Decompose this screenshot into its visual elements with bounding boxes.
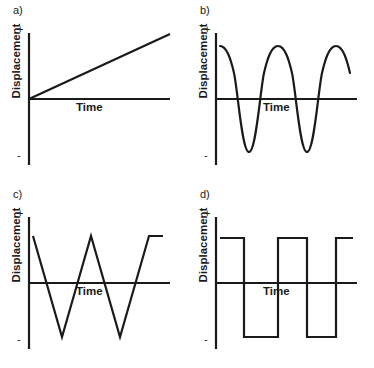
panel-a: a) + - Displacement Time (0, 0, 187, 184)
waveform-figure: a) + - Displacement Time b) + - Displace… (0, 0, 374, 368)
panel-d-y-axis-label: Displacement (197, 197, 209, 293)
panel-c-negative-sign: - (17, 334, 21, 344)
panel-c-y-axis-label: Displacement (10, 197, 22, 293)
panel-b-plot (187, 0, 374, 184)
panel-d-negative-sign: - (204, 334, 208, 344)
panel-b-x-axis-label: Time (263, 101, 290, 113)
panel-b: b) + - Displacement Time (187, 0, 374, 184)
panel-c-x-axis-label: Time (76, 285, 103, 297)
panel-d-x-axis-label: Time (263, 285, 290, 297)
panel-a-plot (0, 0, 187, 184)
panel-a-y-axis-label: Displacement (10, 13, 22, 109)
panel-a-negative-sign: - (17, 150, 21, 160)
ramp-waveform-path (29, 34, 170, 99)
panel-b-negative-sign: - (204, 150, 208, 160)
panel-d-plot (187, 184, 374, 368)
panel-c-plot (0, 184, 187, 368)
panel-b-y-axis-label: Displacement (197, 13, 209, 109)
panel-a-x-axis-label: Time (76, 101, 103, 113)
panel-c: c) + - Displacement Time (0, 184, 187, 368)
panel-d: d) + - Displacement Time (187, 184, 374, 368)
